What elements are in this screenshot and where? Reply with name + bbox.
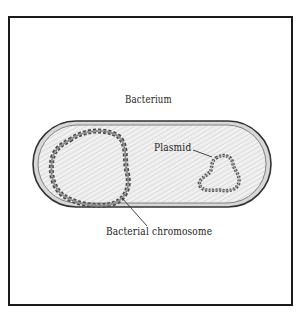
- cell-body: [33, 121, 271, 207]
- plasmid-label: Plasmid: [154, 141, 191, 154]
- chromosome-label: Bacterial chromosome: [106, 225, 212, 238]
- bacterium-label: Bacterium: [125, 93, 172, 105]
- bacterium-illustration: [0, 0, 306, 320]
